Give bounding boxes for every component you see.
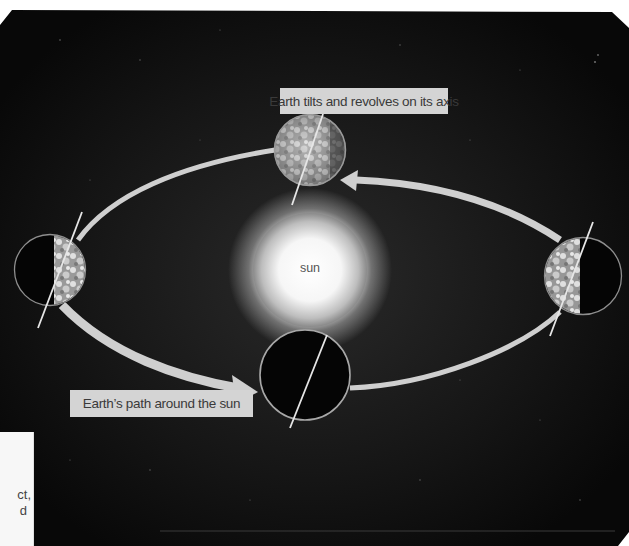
side-text-fragment: ct, [17,487,31,502]
side-text-panel: ct, d [0,432,34,546]
label-earth-path: Earth’s path around the sun [70,390,253,417]
side-text-fragment: d [20,503,27,518]
label-earth-tilt: Earth tilts and revolves on its axis [280,88,448,114]
sun-label: sun [290,261,330,275]
orbit-diagram: Earth tilts and revolves on its axis Ear… [0,0,629,546]
